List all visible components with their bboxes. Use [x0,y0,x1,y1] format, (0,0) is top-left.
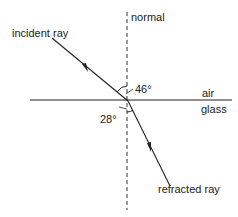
angle-arc-refraction [127,110,133,112]
angle-incidence-label: 46° [135,84,152,95]
glass-label: glass [201,104,227,115]
angle-refraction-label: 28° [100,114,117,125]
incident-ray [52,38,128,101]
refracted-ray-label: refracted ray [158,184,220,195]
normal-label: normal [131,12,165,23]
angle-arc-incidence [117,86,127,92]
refracted-arrow-icon [147,142,151,152]
air-label: air [202,88,214,99]
angle-leader-28 [119,107,127,109]
incident-ray-label: incident ray [12,28,68,39]
